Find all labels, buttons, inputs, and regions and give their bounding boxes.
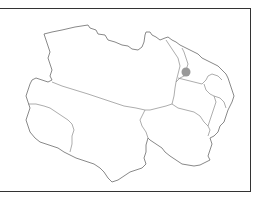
province-map[interactable]: [0, 0, 261, 199]
province-outline: [26, 25, 234, 182]
location-marker[interactable]: [182, 68, 191, 77]
